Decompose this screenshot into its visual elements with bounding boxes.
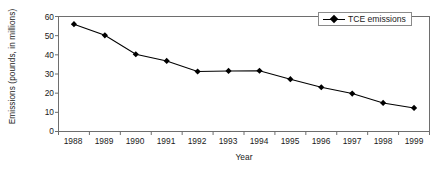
plot-frame: [59, 17, 430, 132]
y-tick-label-10: 10: [32, 108, 54, 116]
data-point-marker: [411, 105, 417, 111]
x-tick-marks: [59, 132, 430, 136]
data-point-marker: [349, 90, 355, 96]
y-axis-title: Emissions (pounds, in millions): [8, 0, 17, 137]
y-tick-label-30: 30: [32, 70, 54, 78]
data-point-marker: [256, 68, 262, 74]
y-tick-label-40: 40: [32, 51, 54, 59]
y-tick-label-0: 0: [32, 127, 54, 135]
y-tick-marks: [55, 17, 59, 132]
y-tick-label-50: 50: [32, 32, 54, 40]
data-point-marker: [195, 68, 201, 74]
data-point-marker: [225, 68, 231, 74]
data-point-marker: [102, 32, 108, 38]
y-tick-label-60: 60: [32, 13, 54, 21]
data-point-marker: [287, 76, 293, 82]
data-point-marker: [133, 51, 139, 57]
legend: TCE emissions: [318, 12, 412, 26]
x-axis-title: Year: [58, 152, 430, 162]
chart-figure: Emissions (pounds, in millions) Year 60 …: [0, 0, 441, 171]
y-tick-label-20: 20: [32, 89, 54, 97]
x-tick-label-1999: 1999: [394, 136, 434, 146]
data-point-marker: [318, 84, 324, 90]
legend-label-tce-emissions: TCE emissions: [348, 14, 406, 24]
data-point-marker: [164, 58, 170, 64]
series-line-tce-emissions: [74, 24, 414, 108]
legend-line-marker-icon: [323, 15, 345, 24]
data-point-marker: [380, 100, 386, 106]
data-point-marker: [71, 21, 77, 27]
